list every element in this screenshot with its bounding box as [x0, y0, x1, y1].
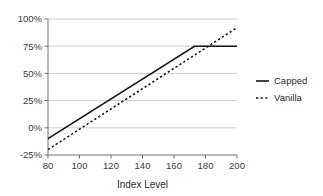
x-tick-label: 120 [103, 160, 119, 171]
x-tick-label: 160 [166, 160, 182, 171]
legend-label-capped: Capped [274, 75, 307, 86]
y-tick-label: 50% [23, 68, 43, 79]
x-tick-label: 100 [72, 160, 88, 171]
x-tick-label: 140 [135, 160, 151, 171]
line-chart: -25%0%25%50%75%100% 80100120140160180200… [0, 0, 323, 196]
y-tick-label: 25% [23, 95, 43, 106]
chart-container: -25%0%25%50%75%100% 80100120140160180200… [0, 0, 323, 196]
x-axis-title: Index Level [117, 179, 168, 190]
y-tick-label: 75% [23, 41, 43, 52]
y-tick-label: 0% [28, 122, 42, 133]
x-tick-label: 180 [198, 160, 214, 171]
x-tick-label: 80 [43, 160, 54, 171]
y-tick-label: -25% [20, 149, 43, 160]
y-tick-label: 100% [18, 13, 43, 24]
x-tick-label: 200 [229, 160, 245, 171]
legend-label-vanilla: Vanilla [274, 92, 303, 103]
